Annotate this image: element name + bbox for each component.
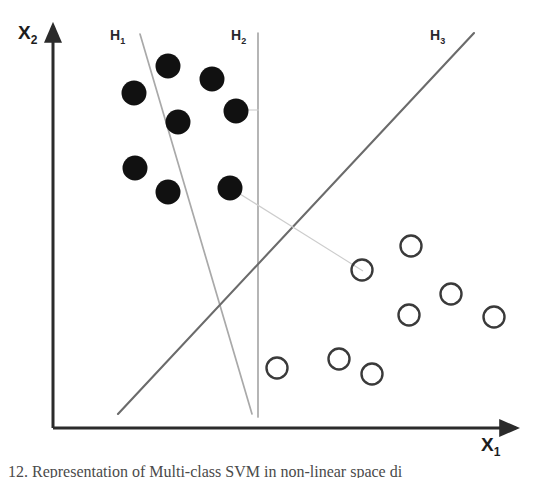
data-point-open [362,364,383,385]
data-point-open [329,349,350,370]
y-axis-label: X2 [18,22,37,47]
x-axis-label-subscript: 1 [494,445,501,459]
data-point-open [399,305,420,326]
figure-caption: 12. Representation of Multi-class SVM in… [8,462,542,478]
data-point-open [484,307,505,328]
y-axis-label-text: X [18,22,31,43]
open-points-group [267,236,505,385]
hyperplane-h3-label-text: H [430,27,440,43]
hyperplane-h3-label: H3 [430,27,445,46]
data-point-filled [200,67,225,92]
figure-canvas: X2 X1 H1 H2 H3 12. Representation of Mul… [0,0,542,478]
x-axis-label: X1 [481,434,500,459]
hyperplane-h2-label-subscript: 2 [241,36,246,46]
hyperplane-h3-line [118,33,474,414]
data-point-filled [218,176,243,201]
hyperplane-h3-label-subscript: 3 [440,36,445,46]
hyperplane-h2-label: H2 [231,27,246,46]
data-point-filled [156,54,181,79]
data-point-filled [166,110,191,135]
data-point-filled [156,180,181,205]
x-axis-label-text: X [481,434,494,455]
y-axis-label-subscript: 2 [31,33,38,47]
hyperplane-h1-label-subscript: 1 [120,36,125,46]
support-connector-line-1 [232,189,363,271]
filled-points-group [122,54,249,205]
hyperplane-h1-label: H1 [110,27,125,46]
data-point-filled [224,99,249,124]
hyperplane-h1-line [140,34,252,414]
axes-group [53,26,516,428]
hyperplane-h2-label-text: H [231,27,241,43]
data-point-open [441,284,462,305]
data-point-filled [122,81,147,106]
data-point-open [401,236,422,257]
data-point-filled [123,156,148,181]
hyperplane-h1-label-text: H [110,27,120,43]
svm-scatter-plot [0,0,542,478]
data-point-open [267,358,288,379]
